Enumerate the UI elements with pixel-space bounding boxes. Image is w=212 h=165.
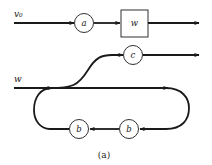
- w-input-label: w: [14, 74, 22, 84]
- v0-label: v₀: [14, 9, 23, 19]
- node-b-right-label: b: [126, 124, 131, 134]
- main-line: w: [14, 74, 168, 88]
- node-a-label: a: [81, 18, 86, 28]
- junction-to-c-arrow: [50, 55, 123, 88]
- caption: (a): [98, 150, 110, 160]
- branch-c: c: [50, 46, 199, 89]
- box-w-label: w: [131, 18, 139, 28]
- feedback-loop: b b: [34, 88, 189, 139]
- top-row: v₀ a w: [14, 9, 199, 37]
- node-c-label: c: [131, 50, 136, 60]
- left-loop-return: [34, 88, 69, 129]
- signal-flow-diagram: v₀ a w c w b b (a): [0, 0, 212, 165]
- right-loop-arrow: [140, 88, 189, 129]
- node-b-left-label: b: [76, 124, 81, 134]
